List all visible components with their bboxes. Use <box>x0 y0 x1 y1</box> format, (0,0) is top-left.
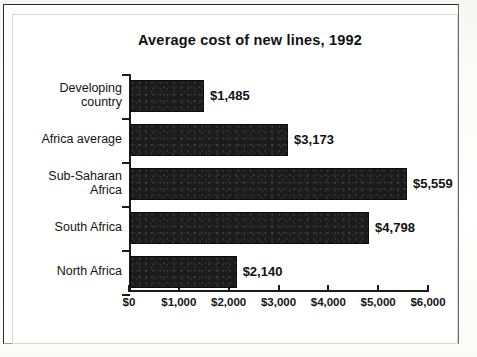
category-label: South Africa <box>0 220 122 234</box>
bar <box>130 124 288 156</box>
bar <box>130 256 237 288</box>
y-axis-tick <box>122 74 130 76</box>
bar <box>130 212 369 244</box>
bar-value-label: $4,798 <box>375 220 415 235</box>
x-axis-tick <box>327 285 329 292</box>
chart-screenshot: Average cost of new lines, 1992 $0$1,000… <box>0 0 477 357</box>
bar-value-label: $2,140 <box>243 264 283 279</box>
bar <box>130 80 204 112</box>
x-axis-tick <box>427 285 429 292</box>
bar <box>130 168 407 200</box>
y-axis-tick <box>122 206 130 208</box>
chart-title: Average cost of new lines, 1992 <box>60 32 440 48</box>
y-axis-tick <box>122 118 130 120</box>
x-axis-tick-label: $6,000 <box>398 296 458 308</box>
bar-value-label: $3,173 <box>294 132 334 147</box>
category-label: Developing country <box>0 81 122 109</box>
category-label: Africa average <box>0 132 122 146</box>
y-axis-tick <box>122 250 130 252</box>
bar-value-label: $1,485 <box>210 88 250 103</box>
category-label: North Africa <box>0 264 122 278</box>
category-label: Sub-Saharan Africa <box>0 169 122 197</box>
bar-value-label: $5,559 <box>413 176 453 191</box>
x-axis-tick <box>278 285 280 292</box>
y-axis-tick <box>122 162 130 164</box>
x-axis-tick <box>377 285 379 292</box>
